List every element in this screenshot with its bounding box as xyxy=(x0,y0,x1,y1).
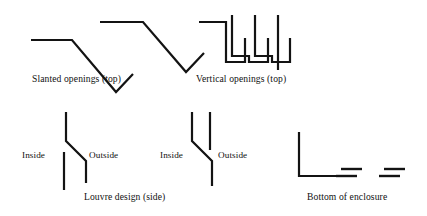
caption-louvre-design: Louvre design (side) xyxy=(84,191,165,202)
vertical-channel-1 xyxy=(199,22,245,62)
figure-canvas: Slanted openings (top) Vertical openings… xyxy=(0,0,427,216)
caption-bottom-of-enclosure: Bottom of enclosure xyxy=(307,191,387,202)
label-outside-second-louvre: Outside xyxy=(218,150,247,160)
label-inside-second-louvre: Inside xyxy=(160,150,183,160)
louvre-outer-vane xyxy=(66,112,86,183)
second-louvre-vane xyxy=(192,112,212,186)
vertical-channel-3 xyxy=(255,15,290,62)
label-inside-louvre: Inside xyxy=(22,150,45,160)
vertical-openings-group xyxy=(199,15,290,70)
caption-slanted-openings: Slanted openings (top) xyxy=(32,73,121,84)
second-louvre-group xyxy=(192,112,212,186)
slanted-vane-upper xyxy=(100,22,204,72)
vertical-channel-2 xyxy=(232,15,268,62)
diagram-line-art xyxy=(0,0,427,216)
label-outside-louvre: Outside xyxy=(89,150,118,160)
slanted-vane-lower xyxy=(31,40,133,92)
caption-vertical-openings: Vertical openings (top) xyxy=(196,73,286,84)
louvre-design-group xyxy=(64,112,86,190)
enclosure-corner xyxy=(299,132,336,176)
bottom-of-enclosure-group xyxy=(299,132,405,176)
